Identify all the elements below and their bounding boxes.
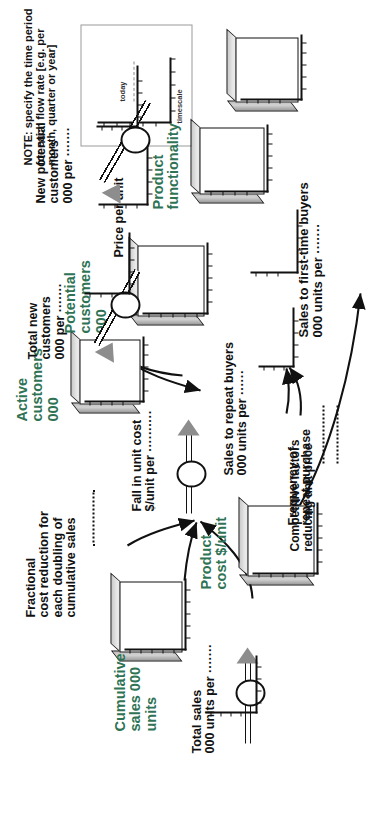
- axis-product-functionality: [204, 124, 268, 192]
- aux-dots-fractional-cost-reduction: [92, 489, 94, 545]
- flow-label-total-new-customers: Total new customers 000 per ·······: [26, 249, 66, 359]
- aux-label-sales-to-repeat-buyers: Sales to repeat buyers 000 units per ···…: [222, 325, 249, 475]
- diagram-canvas: NOTE: specify the time period for each f…: [0, 0, 388, 813]
- flow-label-total-sales: Total sales 000 units per ·······: [190, 633, 217, 753]
- stock-label-product-cost: Product cost $/unit: [198, 493, 229, 589]
- stock-top: [110, 572, 120, 652]
- axis-source-unlabelled: [240, 34, 302, 100]
- axis-sales-to-repeat-buyers: [258, 307, 294, 367]
- stock-top: [226, 28, 236, 102]
- aux-label-frequency-of-repeat-purchase: Frequency of repeat purchase: [286, 409, 313, 525]
- stock-label-product-functionality: Product functionality: [150, 99, 181, 209]
- aux-label-fractional-cost-reduction: Fractional cost reduction for each doubl…: [24, 485, 77, 617]
- flow-arrowhead-fall-in-unit-cost: [177, 419, 199, 435]
- flow-label-new-potential-customers: New potential customers 000 per ·······: [34, 75, 74, 203]
- stock-top: [70, 330, 80, 404]
- flow-valve-new-potential-customers[interactable]: [120, 126, 150, 153]
- axis-potential-customers: [142, 242, 208, 314]
- aux-label-price-per-unit: Price per unit: [112, 161, 125, 257]
- flow-valve-total-new-customers[interactable]: [110, 291, 140, 318]
- aux-dots-competitive-factors-1: [322, 405, 324, 463]
- axis-cumulative-sales: [124, 578, 186, 650]
- flow-valve-fall-in-unit-cost[interactable]: [176, 460, 206, 487]
- stock-top: [238, 496, 248, 576]
- stock-top: [190, 118, 200, 194]
- aux-dots-competitive-factors-2: [336, 405, 338, 463]
- aux-label-sales-to-first-time-buyers: Sales to first-time buyers 000 units per…: [296, 151, 324, 337]
- axis-new-potential-customers: [96, 65, 138, 127]
- diagram-frame: NOTE: specify the time period for each f…: [0, 0, 388, 813]
- axis-sales-to-first-time-buyers: [250, 209, 298, 273]
- stock-label-cumulative-sales: Cumulative sales 000 units: [112, 645, 158, 731]
